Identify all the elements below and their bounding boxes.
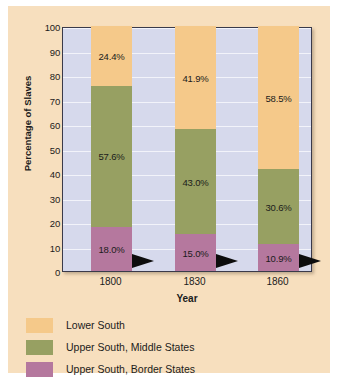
y-axis-tick-label: 60 xyxy=(28,120,60,131)
bar-segment-label: 18.0% xyxy=(99,243,125,254)
bar-segment-label: 15.0% xyxy=(183,247,209,258)
y-axis-tick-label: 10 xyxy=(28,242,60,253)
y-axis-tick-label: 100 xyxy=(28,22,60,33)
bar-segment[interactable]: 58.5% xyxy=(258,26,299,169)
x-axis-tick-label: 1800 xyxy=(81,276,141,287)
x-axis-tick-label: 1860 xyxy=(248,276,308,287)
bar-base-arrow-icon xyxy=(132,254,154,268)
bar-segment[interactable]: 41.9% xyxy=(175,26,216,129)
plot-area: 18.0%57.6%24.4%15.0%43.0%41.9%10.9%30.6%… xyxy=(62,27,312,272)
legend-item-label: Lower South xyxy=(66,319,125,331)
x-axis-tick-label: 1830 xyxy=(165,276,225,287)
y-axis-tick-label: 40 xyxy=(28,169,60,180)
figure-panel: 0102030405060708090100 Percentage of Sla… xyxy=(8,6,330,373)
legend-item-label: Upper South, Border States xyxy=(66,363,195,375)
bar-segment[interactable]: 57.6% xyxy=(91,86,132,227)
bar-segment-label: 43.0% xyxy=(183,176,209,187)
bar-segment-label: 24.4% xyxy=(99,50,125,61)
y-axis-tick-label: 80 xyxy=(28,71,60,82)
y-axis-ticks: 0102030405060708090100 xyxy=(28,27,60,272)
bar-base-arrow-icon xyxy=(299,254,321,268)
y-axis-tick-label: 50 xyxy=(28,144,60,155)
bar-segment-label: 57.6% xyxy=(99,151,125,162)
legend-item-label: Upper South, Middle States xyxy=(66,341,194,353)
bar-segment[interactable]: 43.0% xyxy=(175,129,216,234)
legend-item[interactable]: Upper South, Border States xyxy=(26,359,316,379)
bar-segment[interactable]: 24.4% xyxy=(91,26,132,86)
bar-segment-label: 30.6% xyxy=(266,201,292,212)
bar-segment[interactable]: 15.0% xyxy=(175,234,216,271)
legend-item[interactable]: Lower South xyxy=(26,315,316,335)
bar-segment[interactable]: 10.9% xyxy=(258,244,299,271)
y-axis-title: Percentage of Slaves xyxy=(22,54,33,194)
legend-color-swatch xyxy=(26,340,53,355)
x-axis-title: Year xyxy=(62,293,312,304)
bar-base-arrow-icon xyxy=(216,254,238,268)
y-axis-tick-label: 0 xyxy=(28,267,60,278)
bar-group[interactable]: 15.0%43.0%41.9% xyxy=(175,28,216,271)
bar-segment-label: 58.5% xyxy=(266,92,292,103)
x-axis-ticks: 180018301860 xyxy=(62,276,312,290)
chart-legend: Lower SouthUpper South, Middle StatesUpp… xyxy=(26,315,316,381)
y-axis-tick-label: 20 xyxy=(28,218,60,229)
y-axis-tick-label: 70 xyxy=(28,95,60,106)
legend-item[interactable]: Upper South, Middle States xyxy=(26,337,316,357)
legend-color-swatch xyxy=(26,362,53,377)
bar-segment[interactable]: 30.6% xyxy=(258,169,299,244)
y-axis-tick-label: 90 xyxy=(28,46,60,57)
bar-segment-label: 10.9% xyxy=(266,252,292,263)
bar-segment[interactable]: 18.0% xyxy=(91,227,132,271)
bar-group[interactable]: 10.9%30.6%58.5% xyxy=(258,28,299,271)
y-axis-tick-label: 30 xyxy=(28,193,60,204)
legend-color-swatch xyxy=(26,318,53,333)
bar-group[interactable]: 18.0%57.6%24.4% xyxy=(91,28,132,271)
bar-segment-label: 41.9% xyxy=(183,72,209,83)
